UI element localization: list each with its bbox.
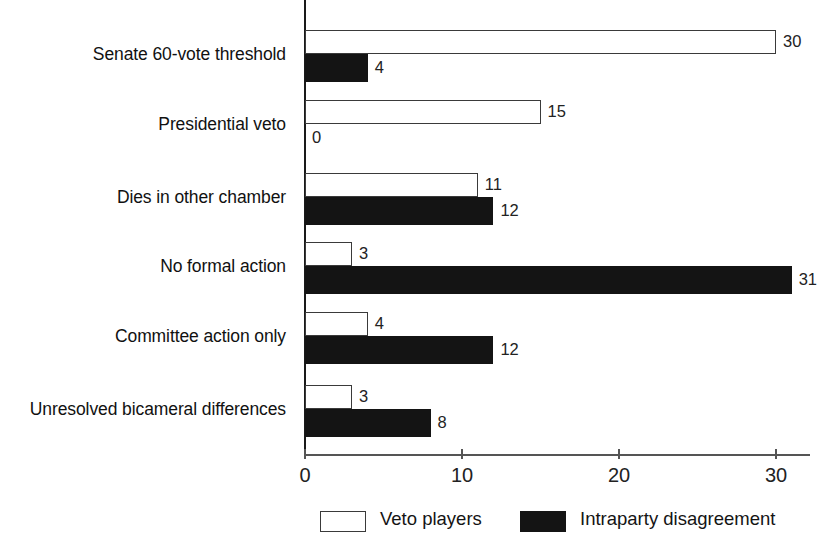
bar-value-label: 12	[500, 340, 518, 359]
x-axis-tick	[775, 449, 777, 459]
bar-intraparty-disagreement	[305, 336, 493, 364]
bar-value-label: 8	[438, 413, 447, 432]
x-axis-tick-label: 0	[299, 464, 310, 487]
category-label: Presidential veto	[158, 114, 286, 135]
bar-value-label: 4	[375, 314, 384, 333]
x-axis-tick-label: 10	[451, 464, 473, 487]
legend-label: Veto players	[380, 508, 482, 530]
bar-value-label: 3	[359, 244, 368, 263]
bar-intraparty-disagreement	[305, 54, 368, 82]
legend-swatch-intraparty-disagreement	[520, 511, 566, 532]
category-label: Dies in other chamber	[117, 187, 286, 208]
bar-value-label: 12	[500, 201, 518, 220]
bar-veto-players	[305, 30, 776, 54]
legend-swatch-veto-players	[320, 511, 366, 532]
plot-area: 0102030304150111233141238	[304, 0, 810, 455]
bar-value-label: 0	[312, 128, 321, 147]
bar-intraparty-disagreement	[305, 409, 431, 437]
category-label: No formal action	[160, 256, 286, 277]
chart-legend: Veto playersIntraparty disagreement	[0, 504, 810, 541]
legend-label: Intraparty disagreement	[580, 508, 775, 530]
bar-veto-players	[305, 242, 352, 266]
bar-veto-players	[305, 173, 478, 197]
bar-value-label: 15	[548, 102, 566, 121]
category-label-column: Senate 60-vote thresholdPresidential vet…	[0, 0, 296, 455]
x-axis-line	[304, 454, 810, 456]
bar-value-label: 31	[799, 270, 817, 289]
x-axis-tick-label: 20	[608, 464, 630, 487]
bar-intraparty-disagreement	[305, 266, 792, 294]
bar-veto-players	[305, 312, 368, 336]
bar-value-label: 3	[359, 387, 368, 406]
x-axis-tick-label: 30	[765, 464, 787, 487]
category-label: Unresolved bicameral differences	[30, 399, 286, 420]
category-label: Committee action only	[115, 326, 286, 347]
x-axis-tick	[304, 449, 306, 459]
bar-value-label: 30	[783, 32, 801, 51]
bar-intraparty-disagreement	[305, 197, 493, 225]
x-axis-tick	[618, 449, 620, 459]
bar-value-label: 4	[375, 58, 384, 77]
category-label: Senate 60-vote threshold	[93, 44, 286, 65]
bar-veto-players	[305, 100, 541, 124]
bar-value-label: 11	[485, 175, 502, 194]
bar-veto-players	[305, 385, 352, 409]
x-axis-tick	[461, 449, 463, 459]
